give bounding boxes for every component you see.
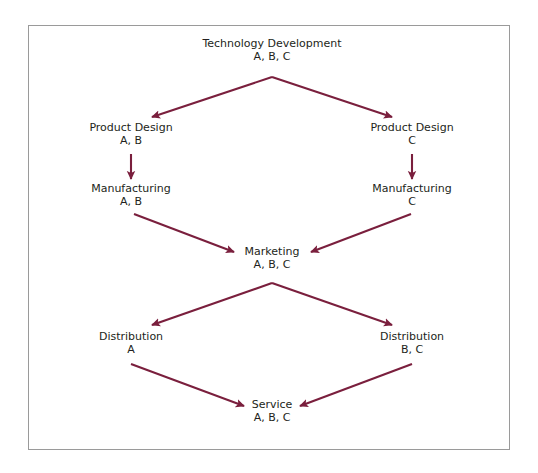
node-tags: A, B [89,135,172,148]
node-distribution-right: Distribution B, C [380,331,444,357]
edge-techdev-to-product-design-left [152,77,272,117]
node-technology-development: Technology Development A, B, C [202,38,341,64]
node-marketing: Marketing A, B, C [245,246,300,272]
node-distribution-left: Distribution A [99,331,163,357]
edge-manufacturing-right-to-marketing [311,214,411,252]
node-tags: A, B, C [245,259,300,272]
node-tags: A [99,344,163,357]
node-tags: C [370,135,453,148]
diagram-canvas: Technology Development A, B, C Product D… [0,0,538,473]
edge-techdev-to-product-design-right [272,77,392,117]
edge-distribution-right-to-service [300,364,412,406]
node-tags: A, B [91,196,171,209]
edge-marketing-to-distribution-right [272,283,392,325]
edge-manufacturing-left-to-marketing [134,214,234,252]
node-tags: A, B, C [202,51,341,64]
node-manufacturing-left: Manufacturing A, B [91,183,171,209]
node-product-design-left: Product Design A, B [89,122,172,148]
node-product-design-right: Product Design C [370,122,453,148]
edge-marketing-to-distribution-left [152,283,272,325]
edge-distribution-left-to-service [131,364,244,406]
node-service: Service A, B, C [252,399,293,425]
node-tags: B, C [380,344,444,357]
node-tags: A, B, C [252,412,293,425]
node-manufacturing-right: Manufacturing C [372,183,452,209]
node-tags: C [372,196,452,209]
